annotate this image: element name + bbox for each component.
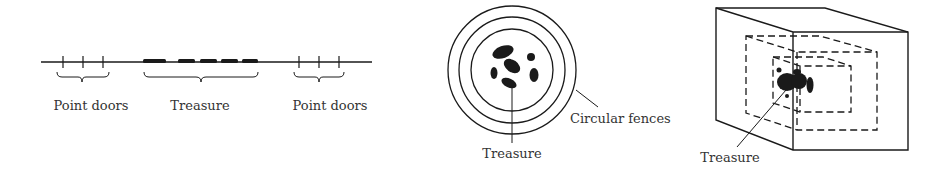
label-point-doors-right: Point doors [293, 98, 368, 113]
panel-3d [716, 8, 908, 150]
label-circular-fences: Circular fences [570, 111, 671, 126]
brace-right [294, 72, 344, 82]
fence-pointer [576, 90, 598, 107]
label-point-doors-left: Point doors [54, 98, 129, 113]
brace-left [57, 72, 109, 82]
treasure-blobs-2d [491, 43, 539, 91]
figure: Point doors Treasure Point doors Circula… [0, 0, 943, 172]
panel-1d [41, 56, 372, 82]
brace-center [144, 72, 258, 82]
label-treasure-1d: Treasure [170, 98, 230, 113]
label-treasure-3d: Treasure [700, 150, 760, 165]
treasure-blobs-3d [777, 68, 814, 99]
label-treasure-2d: Treasure [482, 146, 542, 161]
